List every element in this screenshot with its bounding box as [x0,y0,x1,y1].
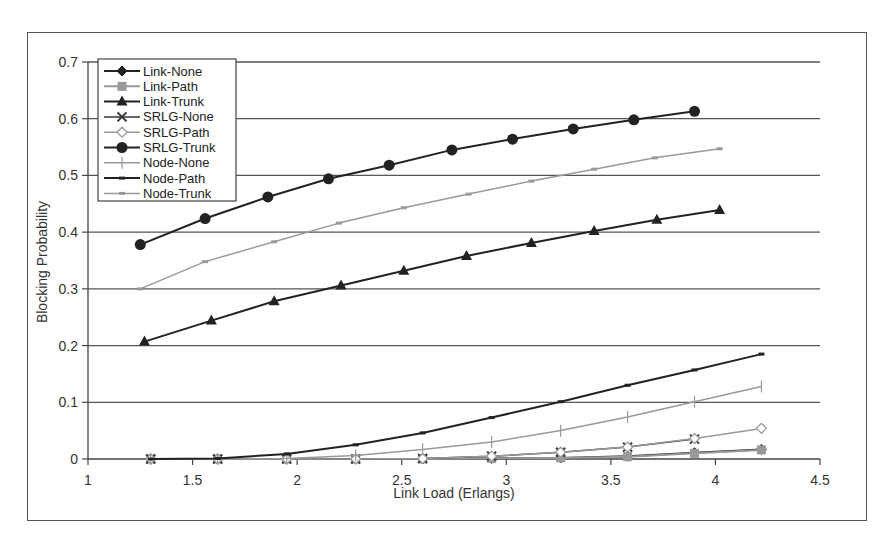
circle-marker [507,134,518,145]
dash-marker [420,431,426,434]
circle-marker [689,106,700,117]
square-marker [118,82,126,90]
dash-marker [591,168,597,171]
x-tick-label: 2 [293,472,301,488]
circle-marker [628,114,639,125]
dash-marker [353,443,359,446]
x-tick-label: 3.5 [601,472,621,488]
series-node-none [151,380,762,465]
x-tick-label: 4 [712,472,720,488]
y-axis-title: Blocking Probability [34,201,50,323]
circle-marker [117,142,128,153]
dash-marker [625,384,631,387]
legend: Link-NoneLink-PathLink-TrunkSRLG-NoneSRL… [98,59,236,201]
circle-marker [262,191,273,202]
legend-label: Link-Path [143,79,198,94]
dash-marker [202,260,208,263]
circle-marker [200,213,211,224]
legend-label: Node-None [143,155,210,170]
dash-marker [758,353,764,356]
dash-marker [652,156,658,159]
circle-marker [323,173,334,184]
series-line [145,210,720,342]
dash-marker [401,206,407,209]
x-tick-label: 1.5 [183,472,203,488]
dash-marker [489,416,495,419]
dash-marker [336,222,342,225]
x-axis-title: Link Load (Erlangs) [393,485,514,501]
series-line [151,354,762,459]
legend-item: SRLG-Trunk [104,140,216,155]
y-tick-label: 0.3 [59,281,79,297]
square-marker [624,453,632,461]
dash-marker [717,147,723,150]
legend-label: SRLG-Path [143,125,209,140]
x-tick-label: 4.5 [810,472,830,488]
circle-marker [135,239,146,250]
series-link-path [147,446,766,463]
circle-marker [446,144,457,155]
y-tick-label: 0.4 [59,224,79,240]
dash-marker [558,400,564,403]
square-marker [691,449,699,457]
y-tick-label: 0.5 [59,167,79,183]
y-tick-label: 0.7 [59,54,79,70]
circle-marker [384,160,395,171]
legend-label: Node-Path [143,171,205,186]
dash-marker [692,368,698,371]
series-link-trunk [139,204,725,346]
legend-label: SRLG-Trunk [143,140,216,155]
dash-marker [119,192,125,195]
circle-marker [568,123,579,134]
dash-marker [137,287,143,290]
legend-label: SRLG-None [143,109,214,124]
triangle-marker [714,204,725,214]
dash-marker [215,457,221,460]
y-tick-label: 0.6 [59,111,79,127]
y-tick-label: 0 [70,451,78,467]
dash-marker [528,180,534,183]
legend-label: Node-Trunk [143,186,212,201]
dash-marker [148,458,154,461]
open-diamond-marker [756,423,766,433]
y-tick-label: 0.1 [59,394,79,410]
dash-marker [271,240,277,243]
series-line [151,386,762,459]
square-marker [757,446,765,454]
dash-marker [284,452,290,455]
y-tick-label: 0.2 [59,338,79,354]
x-tick-label: 1 [84,472,92,488]
dash-marker [466,193,472,196]
line-chart: 00.10.20.30.40.50.60.711.522.533.544.5 L… [0,0,888,542]
dash-marker [119,177,125,180]
legend-label: Link-None [143,64,202,79]
legend-label: Link-Trunk [143,94,204,109]
